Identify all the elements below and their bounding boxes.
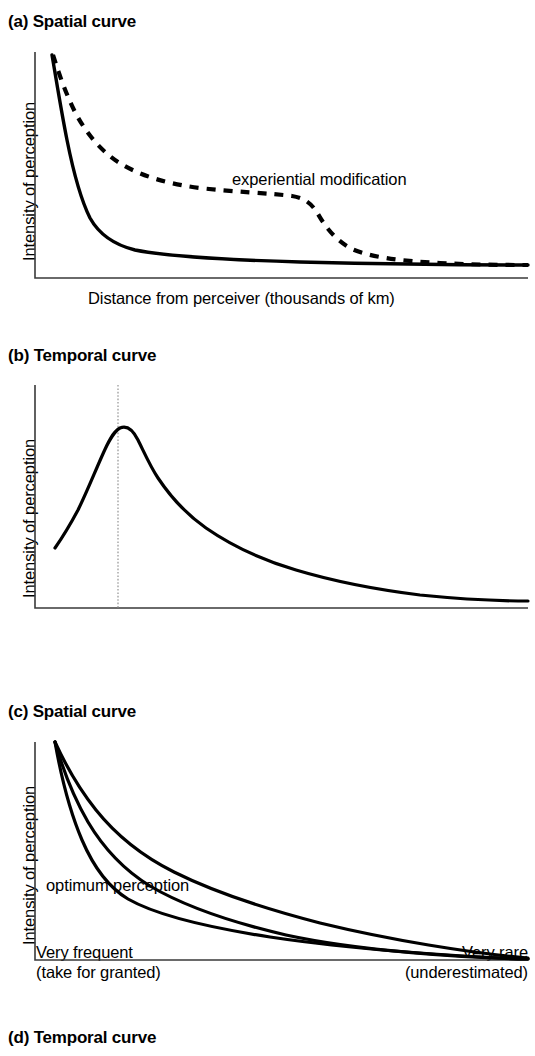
panel-c-heading: (c) Spatial curve [8,702,136,722]
panel-c-curve-1 [55,742,528,958]
panel-b-axes [35,385,528,608]
panel-a-chart-svg [0,0,535,290]
panel-a: (a) Spatial curve Intensity of perceptio… [0,0,535,320]
panel-c-curve-3 [55,742,528,959]
panel-c-chart-svg [0,732,535,964]
panel-a-x-axis-label: Distance from perceiver (thousands of km… [88,289,395,308]
panel-b-curve-temporal [55,427,528,601]
panel-a-plot-area [0,0,535,290]
panel-a-curve-baseline [52,55,528,265]
panel-d: (d) Temporal curve [0,1000,535,1056]
panel-d-heading: (d) Temporal curve [8,1028,156,1048]
panel-a-axes [35,52,528,278]
panel-a-annotation-experiential-modification: experiential modification [232,170,407,189]
panel-b-chart-svg [0,370,535,615]
figure-perception-curves: (a) Spatial curve Intensity of perceptio… [0,0,535,1056]
panel-c: (c) Spatial curve Intensity of perceptio… [0,680,535,1000]
panel-c-plot-area [0,732,535,964]
panel-b-plot-area [0,370,535,615]
panel-a-curve-experiential [53,55,528,265]
panel-b-heading: (b) Temporal curve [8,346,156,366]
panel-b: (b) Temporal curve Intensity of percepti… [0,330,535,670]
panel-c-curve-2 [55,742,528,959]
